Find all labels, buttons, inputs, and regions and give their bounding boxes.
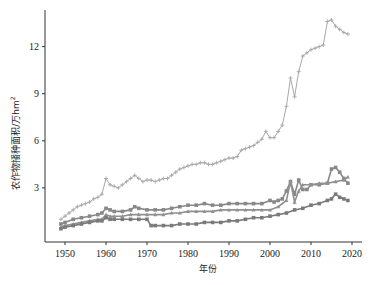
data-point-marker [321,43,325,47]
line-chart: 19501960197019801990200020102020 36912 年… [0,0,375,285]
data-point-marker [137,207,141,211]
x-tick-label: 1950 [55,248,75,259]
plot-area [59,18,350,231]
data-point-marker [207,162,211,166]
data-point-marker [301,207,305,211]
data-point-marker [227,202,231,206]
data-point-marker [346,199,350,203]
x-tick-label: 1970 [137,248,157,259]
data-point-marker [129,208,133,212]
data-point-marker [338,196,342,200]
data-point-marker [108,208,112,212]
data-point-marker [248,145,252,149]
data-point-marker [235,202,239,206]
x-tick-label: 2010 [301,248,321,259]
data-point-marker [317,202,321,206]
data-point-marker [194,203,198,207]
data-point-marker [157,178,161,182]
data-point-marker [96,219,100,223]
data-point-marker [338,170,342,174]
data-point-marker [297,70,301,74]
y-tick-label: 6 [34,135,39,146]
data-point-marker [342,197,346,201]
data-point-marker [108,218,112,222]
data-point-marker [260,202,264,206]
data-point-marker [112,218,116,222]
x-tick-label: 1960 [96,248,116,259]
data-point-marker [145,178,149,182]
data-point-marker [88,214,92,218]
data-point-marker [153,224,157,228]
x-tick-label: 2020 [342,248,362,259]
data-point-marker [260,216,264,220]
data-point-marker [211,203,215,207]
svg-text:农作物播种面积/万hm2: 农作物播种面积/万hm2 [9,96,21,190]
data-point-marker [309,203,313,207]
data-point-marker [219,203,223,207]
data-point-marker [227,156,231,160]
data-point-marker [326,199,330,203]
data-point-marker [227,219,231,223]
data-point-marker [293,95,297,99]
data-point-marker [71,224,75,228]
data-point-marker [186,164,190,168]
data-point-marker [334,166,338,170]
data-point-marker [281,197,285,201]
data-point-marker [346,32,350,36]
data-point-marker [149,178,153,182]
data-point-marker [293,200,297,204]
data-point-marker [153,208,157,212]
data-point-marker [198,161,202,165]
data-point-marker [231,156,235,160]
data-point-marker [211,221,215,225]
data-point-marker [88,221,92,225]
data-point-marker [178,205,182,209]
axes [45,10,362,242]
data-point-marker [59,227,63,231]
data-point-marker [284,198,288,202]
data-point-marker [145,218,149,222]
data-point-marker [104,216,108,220]
data-point-marker [153,180,157,184]
data-point-marker [244,218,248,222]
data-point-marker [63,225,67,229]
x-tick-label: 2000 [260,248,280,259]
data-point-marker [276,213,280,217]
data-point-marker [190,162,194,166]
data-point-marker [289,76,293,80]
data-point-marker [284,104,288,108]
data-point-marker [203,221,207,225]
x-tick-label: 1980 [178,248,198,259]
data-point-marker [133,205,137,209]
data-point-marker [293,208,297,212]
series-line [61,168,348,225]
data-point-marker [243,147,247,151]
data-point-marker [203,202,207,206]
data-point-marker [346,175,350,179]
data-point-marker [170,207,174,211]
y-axis-title-superscript: 2 [9,96,16,100]
data-point-marker [317,45,321,49]
x-tick-label: 1990 [219,248,239,259]
data-point-marker [244,202,248,206]
data-point-marker [178,222,182,226]
data-point-marker [162,208,166,212]
data-point-marker [80,216,84,220]
data-point-marker [104,207,108,211]
data-point-marker [334,192,338,196]
data-point-marker [235,219,239,223]
data-point-marker [80,222,84,226]
data-point-marker [252,216,256,220]
data-point-marker [137,218,141,222]
data-point-marker [272,200,276,204]
x-ticks: 19501960197019801990200020102020 [55,242,362,259]
data-point-marker [112,184,116,188]
data-point-marker [194,222,198,226]
data-point-marker [182,165,186,169]
data-point-marker [186,203,190,207]
data-point-marker [325,19,329,23]
data-point-marker [145,208,149,212]
data-point-marker [170,224,174,228]
data-point-marker [215,161,219,165]
data-point-marker [162,224,166,228]
